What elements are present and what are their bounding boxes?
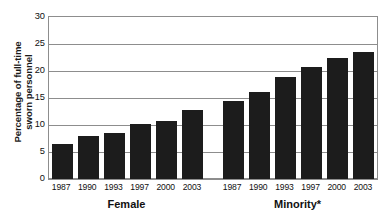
x-tick-label: 1987 (48, 182, 74, 192)
x-tick-label: 1987 (219, 182, 245, 192)
x-tick-label: 1997 (127, 182, 153, 192)
x-tick-label: 2003 (179, 182, 205, 192)
bar-series-container (49, 17, 377, 179)
group-title-minority: Minority* (219, 198, 376, 210)
plot-area: 051015202530 (48, 16, 378, 180)
y-tick-label-10: 10 (23, 119, 45, 129)
bar (249, 92, 270, 179)
group-titles: FemaleMinority* (48, 198, 378, 216)
y-tick-label-20: 20 (23, 65, 45, 75)
bar (327, 58, 348, 179)
bar (223, 101, 244, 179)
x-tick-label: 1990 (245, 182, 271, 192)
bar (353, 52, 374, 179)
y-tick-label-5: 5 (23, 146, 45, 156)
y-tick-label-30: 30 (23, 11, 45, 21)
x-tick-label: 2000 (153, 182, 179, 192)
bar (78, 136, 99, 179)
x-axis-tick-labels: 1987199019931997200020031987199019931997… (48, 182, 378, 195)
y-tick-label-25: 25 (23, 38, 45, 48)
y-tick-label-0: 0 (23, 173, 45, 183)
y-tick-label-15: 15 (23, 92, 45, 102)
bar (156, 121, 177, 179)
bar (275, 77, 296, 179)
bar (52, 144, 73, 179)
x-tick-label: 2000 (324, 182, 350, 192)
x-tick-label: 1993 (100, 182, 126, 192)
bar (301, 67, 322, 179)
x-tick-label: 1997 (298, 182, 324, 192)
bar (182, 110, 203, 179)
x-tick-label: 1990 (74, 182, 100, 192)
y-axis-title-line1: Percentage of full-time (12, 41, 24, 142)
group-title-female: Female (48, 198, 205, 210)
x-tick-label: 1993 (271, 182, 297, 192)
x-tick-label: 2003 (350, 182, 376, 192)
bar (104, 133, 125, 179)
bar (130, 124, 151, 179)
chart-figure: Percentage of full-time sworn personnel … (0, 0, 382, 221)
